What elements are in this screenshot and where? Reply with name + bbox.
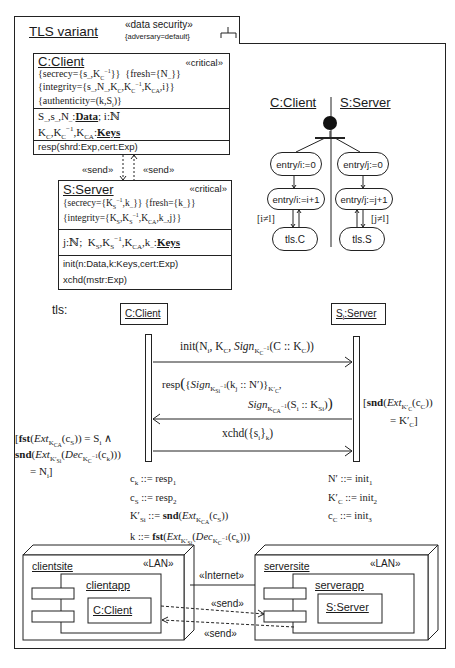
client-node-name: clientsite xyxy=(32,560,73,572)
server-component-name: serverapp xyxy=(315,579,364,591)
send-top-label: «send» xyxy=(211,598,244,609)
client-object: C:Client xyxy=(93,604,132,616)
client-node-stereotype: «LAN» xyxy=(143,558,174,569)
client-component-name: clientapp xyxy=(86,579,130,591)
server-node-name: serversite xyxy=(264,560,310,572)
server-object: S:Server xyxy=(326,601,369,613)
internet-link-label: «Internet» xyxy=(199,570,244,581)
server-node-stereotype: «LAN» xyxy=(370,558,401,569)
send-bottom-label: «send» xyxy=(204,628,237,639)
